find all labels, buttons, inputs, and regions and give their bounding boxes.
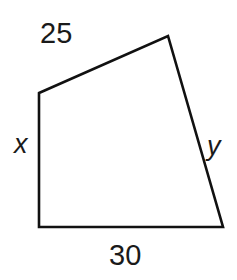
- quadrilateral-figure: 25 30 x y: [0, 0, 237, 280]
- quadrilateral-shape: [39, 36, 223, 227]
- right-side-label: y: [205, 131, 222, 161]
- quadrilateral-svg: 25 30 x y: [0, 0, 237, 280]
- left-side-label: x: [12, 129, 29, 159]
- top-side-label: 25: [40, 17, 72, 49]
- bottom-side-label: 30: [109, 239, 141, 271]
